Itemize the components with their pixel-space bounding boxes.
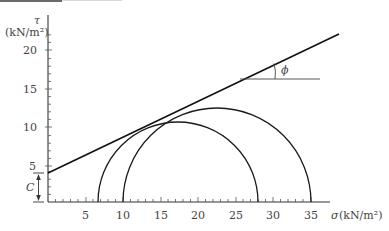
mohr-circle-diagram: ϕ C 5 10 15 20 τ (kN/m²) 5 10 15 20 25 3… — [0, 0, 389, 231]
x-tick-25: 25 — [229, 209, 243, 222]
y-tick-5: 5 — [29, 160, 36, 173]
x-tick-20: 20 — [191, 209, 205, 222]
y-tick-10: 10 — [23, 121, 37, 134]
x-axis-unit: (kN/m²) — [339, 209, 382, 222]
y-tick-15: 15 — [23, 83, 37, 96]
y-tick-20: 20 — [23, 44, 37, 57]
x-tick-5: 5 — [82, 209, 89, 222]
mohr-circle-2 — [123, 108, 311, 202]
y-axis-unit: (kN/m²) — [5, 26, 48, 39]
angle-arc-icon — [274, 64, 275, 80]
x-tick-10: 10 — [116, 209, 130, 222]
x-tick-15: 15 — [154, 209, 168, 222]
x-tick-35: 35 — [304, 209, 318, 222]
angle-phi-label: ϕ — [281, 64, 289, 77]
x-ticks — [56, 197, 312, 202]
cohesion-label: C — [26, 181, 35, 194]
cohesion-indicator — [33, 173, 44, 202]
failure-envelope-line — [48, 34, 339, 173]
x-tick-30: 30 — [266, 209, 280, 222]
mohr-circle-1 — [98, 122, 258, 202]
axes — [48, 15, 330, 202]
x-axis-symbol: σ — [331, 209, 339, 222]
